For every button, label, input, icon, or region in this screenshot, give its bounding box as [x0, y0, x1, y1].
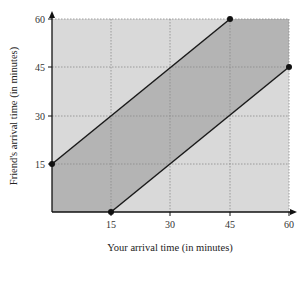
point-60-45 [286, 64, 292, 70]
y-tick-30: 30 [35, 111, 45, 122]
y-axis-arrow-icon [49, 11, 55, 18]
y-tick-45: 45 [35, 62, 45, 73]
meeting-probability-chart: 60 45 30 15 15 30 45 60 Your arrival tim… [0, 0, 305, 284]
y-tick-60: 60 [35, 14, 45, 25]
x-tick-60: 60 [284, 219, 294, 230]
x-tick-30: 30 [165, 219, 175, 230]
x-axis-arrow-icon [290, 209, 297, 215]
y-tick-15: 15 [35, 159, 45, 170]
point-45-60 [227, 16, 233, 22]
y-axis-label: Friend's arrival time (in minutes) [8, 46, 20, 185]
x-tick-15: 15 [106, 219, 116, 230]
x-axis-label: Your arrival time (in minutes) [107, 242, 233, 254]
x-tick-45: 45 [225, 219, 235, 230]
